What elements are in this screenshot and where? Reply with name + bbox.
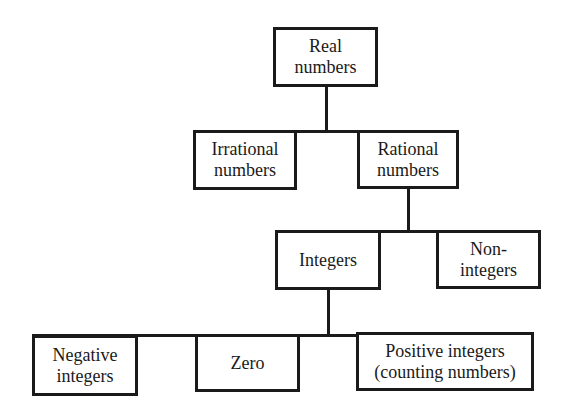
node-label-line: Rational <box>378 139 439 160</box>
node-negative-integers: Negative integers <box>32 335 138 396</box>
node-integers: Integers <box>275 230 381 290</box>
node-label-line: integers <box>57 366 114 387</box>
node-label-line: Negative <box>53 345 118 366</box>
connector-integers-down <box>327 289 330 337</box>
node-label-line: numbers <box>295 57 357 78</box>
node-label-line: (counting numbers) <box>374 362 515 383</box>
node-label-line: numbers <box>214 160 276 181</box>
node-positive-integers: Positive integers (counting numbers) <box>356 332 534 391</box>
node-label-line: Real <box>309 36 342 57</box>
node-label-line: integers <box>460 260 517 281</box>
node-irrational-numbers: Irrational numbers <box>193 130 297 190</box>
node-rational-numbers: Rational numbers <box>357 130 459 189</box>
node-label-line: Non- <box>470 239 507 260</box>
node-real-numbers: Real numbers <box>273 27 378 87</box>
connector-real-down <box>325 86 328 132</box>
node-label-line: Positive integers <box>385 341 505 362</box>
node-non-integers: Non- integers <box>436 230 541 289</box>
node-label-line: Zero <box>231 353 265 374</box>
node-label-line: Integers <box>299 250 357 271</box>
number-classification-diagram: Real numbers Irrational numbers Rational… <box>0 0 566 419</box>
node-label-line: Irrational <box>212 139 279 160</box>
connector-rational-down <box>407 188 410 232</box>
node-zero: Zero <box>195 334 300 392</box>
figure-caption-cropped <box>200 408 360 419</box>
node-label-line: numbers <box>377 160 439 181</box>
